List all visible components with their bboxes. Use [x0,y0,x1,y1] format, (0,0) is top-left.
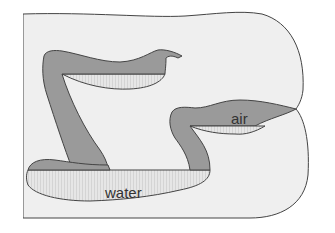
diagram: air water [0,0,335,233]
air-label: air [231,110,248,127]
water-label: water [104,184,142,201]
